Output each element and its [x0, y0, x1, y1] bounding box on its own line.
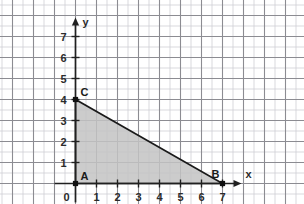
x-axis-tick-label: 4: [156, 191, 163, 203]
coordinate-grid-figure: 12345671234567 ABC x y 0: [0, 0, 304, 204]
y-axis-tick-label: 2: [60, 136, 66, 148]
y-axis-tick-label: 6: [60, 52, 66, 64]
vertex-label-a: A: [81, 170, 89, 182]
y-axis-tick-label: 1: [60, 157, 66, 169]
origin-label: 0: [63, 191, 69, 203]
x-axis-tick-label: 3: [135, 191, 141, 203]
y-axis-tick-label: 4: [60, 94, 67, 106]
vertex-label-b: B: [212, 168, 220, 180]
y-axis-tick-label: 3: [60, 115, 66, 127]
x-axis-tick-label: 1: [93, 191, 99, 203]
vertex-marker-c: [73, 97, 78, 102]
vertex-label-c: C: [81, 86, 89, 98]
y-axis-tick-label: 5: [60, 73, 66, 85]
x-axis-tick-label: 6: [198, 191, 204, 203]
x-axis-tick-label: 2: [114, 191, 120, 203]
x-axis-tick-label: 7: [219, 191, 225, 203]
x-axis-label: x: [246, 168, 253, 180]
y-axis-label: y: [83, 16, 90, 28]
x-axis-tick-label: 5: [177, 191, 183, 203]
vertex-marker-a: [73, 181, 78, 186]
vertex-marker-b: [220, 181, 225, 186]
y-axis-tick-label: 7: [60, 31, 66, 43]
coordinate-plot: 12345671234567 ABC x y 0: [0, 0, 304, 204]
